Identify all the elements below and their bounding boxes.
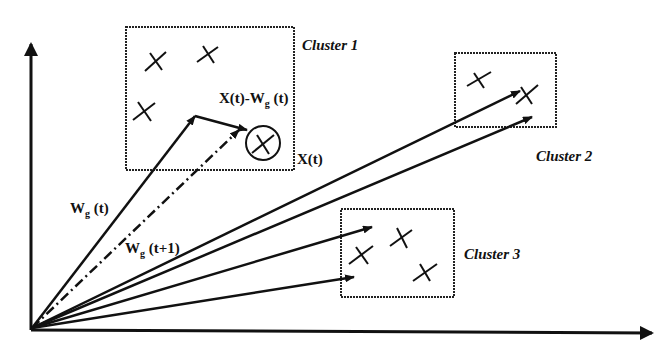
x-axis (31, 330, 652, 333)
cross-icon (145, 52, 166, 71)
circled-input-point (246, 126, 280, 160)
xt-label: X(t) (297, 151, 323, 168)
wg-t-vector (32, 116, 195, 328)
diff-label: X(t)-Wg (t) (219, 90, 289, 109)
cross-icon (197, 46, 218, 63)
cross-icon (467, 72, 491, 88)
cluster-3-box (341, 209, 454, 297)
cluster-3-vector-b (32, 277, 354, 328)
cluster-1-label: Cluster 1 (302, 37, 358, 53)
cluster-2-vector-b (32, 117, 532, 328)
diff-vector (195, 116, 247, 130)
cluster-3-label: Cluster 3 (464, 246, 521, 262)
cross-icon (413, 264, 437, 281)
wg-t-label: Wg (t) (70, 200, 109, 219)
clustering-diagram: Cluster 1 Cluster 2 Cluster 3 X(t)-Wg (t… (0, 0, 672, 358)
cross-icon (349, 246, 373, 264)
wg-t1-label: Wg (t+1) (125, 240, 180, 259)
cross-icon (390, 228, 412, 248)
cross-icon (516, 85, 538, 104)
cluster-3-vector-a (32, 227, 372, 328)
cross-icon (133, 102, 155, 121)
cluster-2-label: Cluster 2 (536, 148, 593, 164)
